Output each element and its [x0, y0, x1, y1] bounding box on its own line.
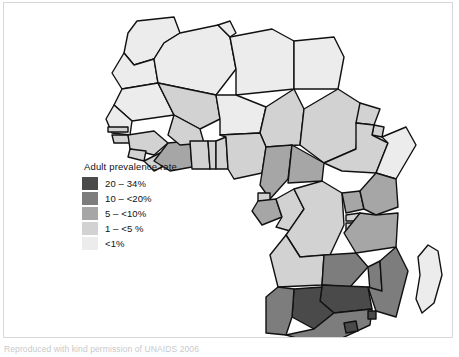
region-namibia[interactable] — [266, 287, 294, 335]
legend-item-1-5[interactable]: 1 – <5 % — [82, 221, 202, 236]
region-swaziland[interactable] — [368, 311, 376, 319]
region-egypt[interactable] — [294, 37, 344, 89]
region-libya[interactable] — [230, 29, 294, 95]
region-lesotho[interactable] — [344, 321, 358, 333]
region-madagascar[interactable] — [416, 245, 442, 313]
region-cameroon[interactable] — [260, 145, 292, 199]
legend-swatch-5-10 — [82, 207, 98, 220]
region-eritrea[interactable] — [356, 103, 380, 125]
figure-hiv-prevalence-africa: Adult prevalence rate 20 – 34% 10 – <20%… — [0, 0, 459, 357]
region-guinea-bissau[interactable] — [112, 135, 130, 143]
legend-item-20-34[interactable]: 20 – 34% — [82, 176, 202, 191]
legend-swatch-20-34 — [82, 177, 98, 190]
region-kenya[interactable] — [360, 173, 398, 215]
region-gambia[interactable] — [108, 127, 128, 132]
figure-caption: Reproduced with kind permission of UNAID… — [4, 344, 452, 354]
map-stage — [4, 3, 453, 338]
legend-label-10-20: 10 – <20% — [105, 193, 152, 204]
region-sierra-leone[interactable] — [128, 149, 146, 161]
legend-swatch-1-5 — [82, 222, 98, 235]
map-legend: Adult prevalence rate 20 – 34% 10 – <20%… — [82, 161, 202, 251]
region-togo[interactable] — [208, 141, 216, 169]
region-zambia[interactable] — [322, 253, 368, 287]
legend-title: Adult prevalence rate — [84, 161, 202, 172]
region-nigeria[interactable] — [220, 133, 266, 179]
legend-label-20-34: 20 – 34% — [105, 178, 146, 189]
legend-label-1-5: 1 – <5 % — [105, 223, 144, 234]
africa-choropleth-map[interactable] — [4, 3, 453, 338]
legend-item-5-10[interactable]: 5 – <10% — [82, 206, 202, 221]
map-frame: Adult prevalence rate 20 – 34% 10 – <20%… — [3, 2, 453, 338]
legend-item-10-20[interactable]: 10 – <20% — [82, 191, 202, 206]
region-niger[interactable] — [216, 95, 266, 135]
legend-label-under-1: <1% — [105, 238, 125, 249]
legend-swatch-10-20 — [82, 192, 98, 205]
legend-swatch-under-1 — [82, 237, 98, 250]
legend-label-5-10: 5 – <10% — [105, 208, 146, 219]
region-chad[interactable] — [260, 89, 304, 147]
legend-item-under-1[interactable]: <1% — [82, 236, 202, 251]
